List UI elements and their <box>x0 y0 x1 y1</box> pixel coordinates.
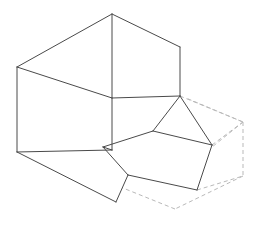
isometric-drawing-canvas <box>0 0 254 229</box>
